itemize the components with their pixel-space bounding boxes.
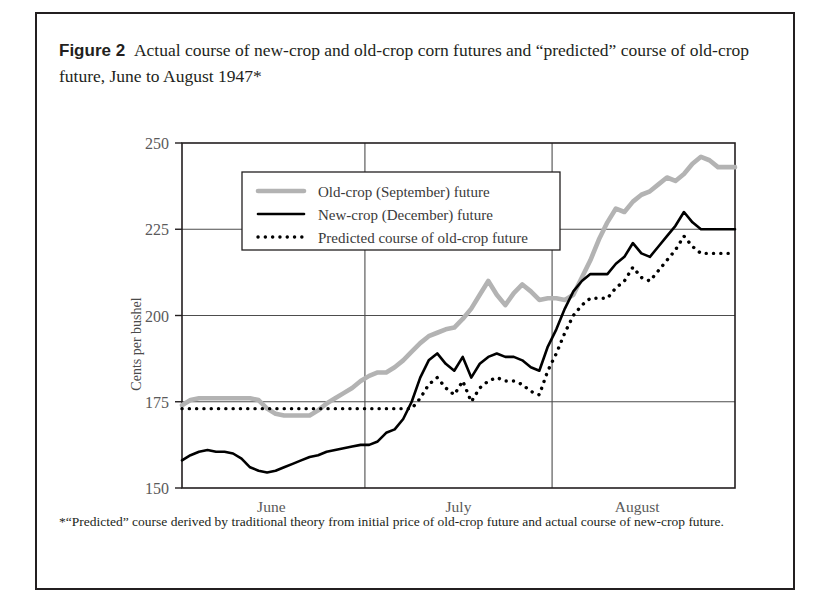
y-tick-label: 250 <box>145 135 169 152</box>
y-axis-tick-marks <box>175 143 182 488</box>
legend-label: Old-crop (September) future <box>318 184 490 201</box>
chart-plot-area: 150175200225250 JuneJulyAugust Cents per… <box>37 14 797 592</box>
legend-label: New-crop (December) future <box>318 207 493 224</box>
y-tick-label: 200 <box>145 308 169 325</box>
figure-footnote: *“Predicted” course derived by tradition… <box>59 512 777 532</box>
y-tick-label: 150 <box>145 480 169 497</box>
y-tick-label: 175 <box>145 394 169 411</box>
y-tick-label: 225 <box>145 221 169 238</box>
series-line <box>182 212 735 472</box>
y-axis-tick-labels: 150175200225250 <box>145 135 169 497</box>
figure-frame: Figure 2 Actual course of new-crop and o… <box>35 12 795 590</box>
y-axis-title: Cents per bushel <box>129 297 144 390</box>
chart-legend: Old-crop (September) futureNew-crop (Dec… <box>242 172 560 250</box>
line-chart: 150175200225250 JuneJulyAugust Cents per… <box>37 14 797 592</box>
legend-label: Predicted course of old-crop future <box>318 230 528 246</box>
